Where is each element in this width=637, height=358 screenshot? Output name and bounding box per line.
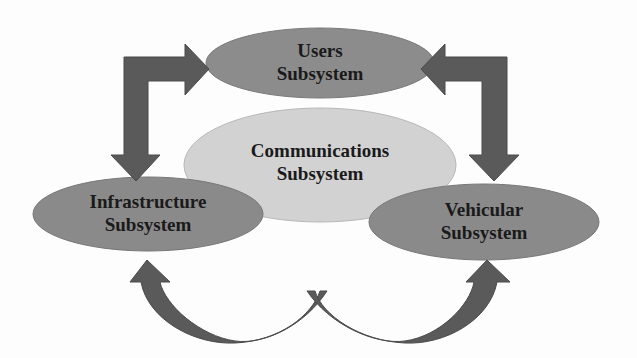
infrastructure-label-line1: Infrastructure [48,191,248,214]
vehicular-label-line1: Vehicular [384,199,584,222]
vehicular-label-line2: Subsystem [384,222,584,245]
infrastructure-label-line2: Subsystem [48,214,248,237]
communications-subsystem-label: Communications Subsystem [200,140,440,186]
users-label-line1: Users [220,40,420,63]
bottom-right-curved-arrow-icon [307,260,510,343]
communications-label-line1: Communications [200,140,440,163]
users-label-line2: Subsystem [220,63,420,86]
infrastructure-subsystem-label: Infrastructure Subsystem [48,191,248,237]
users-subsystem-label: Users Subsystem [220,40,420,86]
diagram-canvas: Users Subsystem Communications Subsystem… [0,0,637,358]
bottom-left-curved-arrow-icon [130,260,327,343]
communications-label-line2: Subsystem [200,163,440,186]
vehicular-subsystem-label: Vehicular Subsystem [384,199,584,245]
